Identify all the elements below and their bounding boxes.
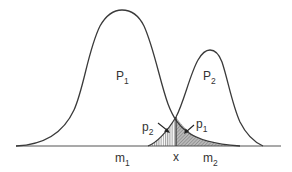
label-m1: m1 <box>115 151 130 168</box>
label-P2: P2 <box>203 69 216 86</box>
label-m2: m2 <box>203 151 218 168</box>
label-P1: P1 <box>116 69 129 86</box>
label-x: x <box>173 150 179 164</box>
label-p1: p1 <box>196 117 208 134</box>
distribution-overlap-diagram: P1 P2 p2 p1 m1 x m2 <box>0 0 292 172</box>
label-p2: p2 <box>142 120 154 137</box>
